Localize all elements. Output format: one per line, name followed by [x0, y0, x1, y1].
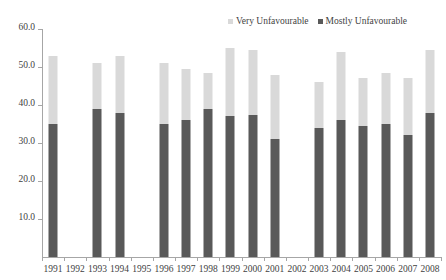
- bar-slot-2003: [308, 29, 330, 257]
- bar-segment-very-unfavourable[interactable]: [93, 63, 102, 109]
- bar-stack[interactable]: [359, 78, 368, 257]
- x-axis-label: 1993: [86, 263, 108, 275]
- y-axis-tick-label: 20.0: [18, 174, 35, 185]
- x-axis-tick-mark: [419, 257, 420, 261]
- bar-segment-mostly-unfavourable[interactable]: [115, 113, 124, 257]
- x-axis-label: 1991: [42, 263, 64, 275]
- bar-segment-mostly-unfavourable[interactable]: [49, 124, 58, 257]
- bar-segment-very-unfavourable[interactable]: [226, 48, 235, 116]
- y-axis-tick: 40.0: [0, 105, 42, 106]
- bar-slot-2008: [419, 29, 441, 257]
- x-axis-label: 1999: [219, 263, 241, 275]
- bar-segment-mostly-unfavourable[interactable]: [182, 120, 191, 257]
- plot-area: [42, 29, 440, 257]
- legend-label-mostly-unfavourable: Mostly Unfavourable: [326, 16, 408, 27]
- bar-segment-very-unfavourable[interactable]: [315, 82, 324, 128]
- y-axis-tick-label: 10.0: [18, 212, 35, 223]
- bar-segment-very-unfavourable[interactable]: [270, 75, 279, 140]
- bar-segment-very-unfavourable[interactable]: [204, 73, 213, 109]
- bar-segment-very-unfavourable[interactable]: [248, 50, 257, 115]
- x-axis-tick-mark: [131, 257, 132, 261]
- legend-swatch-very-unfavourable: [228, 19, 233, 24]
- bar-stack[interactable]: [425, 50, 434, 257]
- bar-segment-mostly-unfavourable[interactable]: [248, 115, 257, 258]
- bar-segment-mostly-unfavourable[interactable]: [337, 120, 346, 257]
- bar-segment-mostly-unfavourable[interactable]: [226, 116, 235, 257]
- bar-segment-mostly-unfavourable[interactable]: [381, 124, 390, 257]
- x-axis-label: 2000: [242, 263, 264, 275]
- x-axis-tick-mark: [197, 257, 198, 261]
- y-axis-tick: 50.0: [0, 67, 42, 68]
- bar-stack[interactable]: [403, 78, 412, 257]
- bar-stack[interactable]: [337, 52, 346, 257]
- bar-slot-2006: [375, 29, 397, 257]
- bar-stack[interactable]: [159, 63, 168, 257]
- bar-segment-mostly-unfavourable[interactable]: [93, 109, 102, 257]
- bar-stack[interactable]: [182, 69, 191, 257]
- x-axis-tick-mark: [397, 257, 398, 261]
- bar-segment-mostly-unfavourable[interactable]: [403, 135, 412, 257]
- bar-slot-1996: [153, 29, 175, 257]
- x-axis-tick-mark: [441, 257, 442, 261]
- legend-item-mostly-unfavourable[interactable]: Mostly Unfavourable: [318, 16, 408, 27]
- bar-segment-mostly-unfavourable[interactable]: [159, 124, 168, 257]
- x-axis-label: 1994: [109, 263, 131, 275]
- y-axis-tick-label: 30.0: [18, 136, 35, 147]
- chart-container: Very Unfavourable Mostly Unfavourable 10…: [0, 0, 446, 280]
- x-axis-label: 1997: [175, 263, 197, 275]
- bar-slot-1998: [197, 29, 219, 257]
- x-axis-label: 1995: [131, 263, 153, 275]
- x-axis-label: 2003: [308, 263, 330, 275]
- bar-stack[interactable]: [115, 56, 124, 257]
- legend-item-very-unfavourable[interactable]: Very Unfavourable: [228, 16, 309, 27]
- bar-slot-2004: [330, 29, 352, 257]
- bar-slot-1991: [42, 29, 64, 257]
- x-axis-tick-mark: [219, 257, 220, 261]
- bar-stack[interactable]: [315, 82, 324, 257]
- y-axis-tick: 20.0: [0, 181, 42, 182]
- bar-segment-very-unfavourable[interactable]: [159, 63, 168, 124]
- bar-segment-mostly-unfavourable[interactable]: [270, 139, 279, 257]
- bar-stack[interactable]: [49, 56, 58, 257]
- x-axis-tick-mark: [86, 257, 87, 261]
- legend-label-very-unfavourable: Very Unfavourable: [236, 16, 309, 27]
- x-axis-label: 1998: [197, 263, 219, 275]
- bar-slot-2001: [264, 29, 286, 257]
- bar-stack[interactable]: [93, 63, 102, 257]
- x-axis-tick-mark: [375, 257, 376, 261]
- bar-segment-very-unfavourable[interactable]: [425, 50, 434, 113]
- x-axis-tick-mark: [109, 257, 110, 261]
- bar-stack[interactable]: [226, 48, 235, 257]
- legend-swatch-mostly-unfavourable: [318, 19, 323, 24]
- bar-segment-very-unfavourable[interactable]: [49, 56, 58, 124]
- bar-slot-2007: [397, 29, 419, 257]
- y-axis-tick-label: 40.0: [18, 98, 35, 109]
- x-axis-tick-mark: [308, 257, 309, 261]
- x-axis-label: 1996: [153, 263, 175, 275]
- bar-stack[interactable]: [248, 50, 257, 257]
- bar-segment-very-unfavourable[interactable]: [337, 52, 346, 120]
- y-axis-tick: 30.0: [0, 143, 42, 144]
- bar-stack[interactable]: [381, 73, 390, 257]
- bar-stack[interactable]: [270, 75, 279, 257]
- x-axis-tick-mark: [330, 257, 331, 261]
- x-axis-tick-mark: [175, 257, 176, 261]
- bar-segment-mostly-unfavourable[interactable]: [359, 126, 368, 257]
- bar-segment-mostly-unfavourable[interactable]: [315, 128, 324, 257]
- bar-slot-1999: [219, 29, 241, 257]
- x-axis-tick-mark: [352, 257, 353, 261]
- bar-segment-very-unfavourable[interactable]: [182, 69, 191, 120]
- bar-stack[interactable]: [204, 73, 213, 257]
- bar-segment-very-unfavourable[interactable]: [403, 78, 412, 135]
- bar-segment-mostly-unfavourable[interactable]: [204, 109, 213, 257]
- x-axis-tick-mark: [64, 257, 65, 261]
- bar-segment-mostly-unfavourable[interactable]: [425, 113, 434, 257]
- bar-segment-very-unfavourable[interactable]: [115, 56, 124, 113]
- bar-segment-very-unfavourable[interactable]: [359, 78, 368, 126]
- x-axis-label: 2008: [419, 263, 441, 275]
- x-axis-label: 1992: [64, 263, 86, 275]
- bar-segment-very-unfavourable[interactable]: [381, 73, 390, 124]
- chart-legend: Very Unfavourable Mostly Unfavourable: [228, 16, 407, 27]
- x-axis-label: 2005: [352, 263, 374, 275]
- bar-slot-1997: [175, 29, 197, 257]
